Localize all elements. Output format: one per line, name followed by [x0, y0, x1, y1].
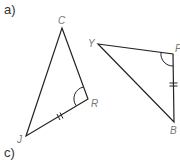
vertex-label-y: Y: [88, 38, 96, 49]
angle-mark-p: [161, 53, 173, 67]
vertex-label-c: C: [58, 15, 66, 26]
vertex-label-p: P: [175, 43, 180, 54]
triangle-crj: [26, 28, 88, 136]
diagram-canvas: C R J Y P B: [0, 0, 180, 161]
vertex-label-j: J: [16, 134, 23, 145]
vertex-label-b: B: [170, 125, 177, 136]
triangle-ypb: [98, 44, 178, 122]
vertex-label-r: R: [91, 98, 98, 109]
triangle-ypb-shape: [98, 44, 174, 122]
triangle-crj-shape: [26, 28, 88, 136]
